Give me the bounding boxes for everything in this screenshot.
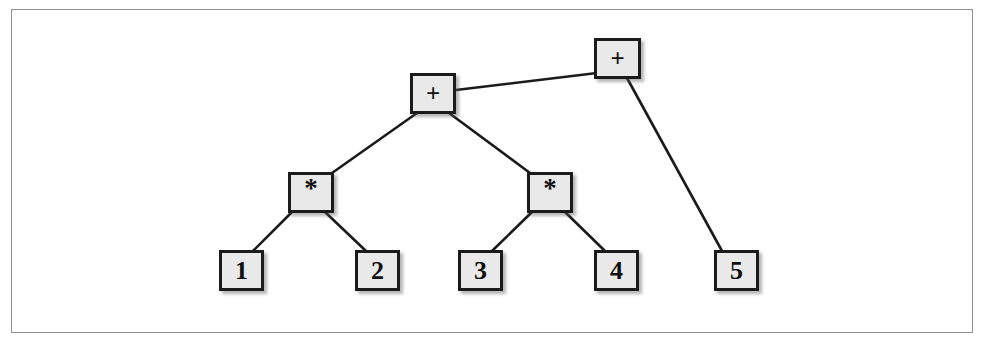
- tree-edge-right-star-to-leaf-4: [565, 212, 605, 251]
- tree-node-left-star: *: [288, 172, 334, 213]
- tree-edge-right-star-to-leaf-3: [492, 212, 532, 251]
- tree-edge-inner-plus-to-right-star: [449, 113, 530, 173]
- tree-node-root-plus: +: [594, 38, 641, 79]
- tree-node-leaf-5: 5: [714, 250, 759, 291]
- tree-node-leaf-1: 1: [219, 250, 264, 291]
- tree-edge-inner-plus-to-root-plus: [456, 73, 597, 90]
- tree-node-inner-plus: +: [410, 73, 456, 114]
- tree-edge-left-star-to-leaf-2: [325, 212, 366, 251]
- tree-edge-left-star-to-leaf-1: [253, 212, 292, 251]
- edge-group: [253, 73, 722, 251]
- tree-node-leaf-4: 4: [594, 250, 639, 291]
- tree-node-right-star: *: [527, 172, 573, 213]
- tree-edge-inner-plus-to-left-star: [332, 113, 417, 173]
- tree-node-leaf-3: 3: [458, 250, 503, 291]
- tree-edges-canvas: [0, 0, 985, 344]
- tree-node-leaf-2: 2: [355, 250, 400, 291]
- tree-edge-root-plus-to-leaf-5: [627, 78, 722, 251]
- figure-root: ++**12345: [0, 0, 985, 344]
